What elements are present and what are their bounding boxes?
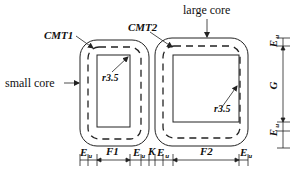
small-core xyxy=(80,40,149,146)
large-core-label: large core xyxy=(183,4,230,16)
dim-eu-bottom: Eu xyxy=(268,125,279,136)
dim-eu-3: Eu xyxy=(157,147,168,158)
cmt2-label: CMT2 xyxy=(128,22,157,33)
dim-eu-top: Eu xyxy=(268,36,279,47)
dim-eu-2: Eu xyxy=(133,147,144,158)
dim-eu-4: Eu xyxy=(240,147,251,158)
cmt1-label: CMT1 xyxy=(44,30,73,41)
radius-label-large: r3.5 xyxy=(214,104,230,114)
small-core-label: small core xyxy=(5,77,55,89)
dim-f2: F2 xyxy=(200,146,213,157)
large-core xyxy=(155,38,248,146)
dim-g: G xyxy=(268,82,279,90)
radius-label-small: r3.5 xyxy=(102,73,118,83)
radius-arrow-small xyxy=(112,57,128,72)
dim-f1: F1 xyxy=(106,146,119,157)
cmt2-arrow xyxy=(150,32,172,47)
dim-k: K xyxy=(148,146,155,157)
dim-eu-1: Eu xyxy=(80,147,91,158)
